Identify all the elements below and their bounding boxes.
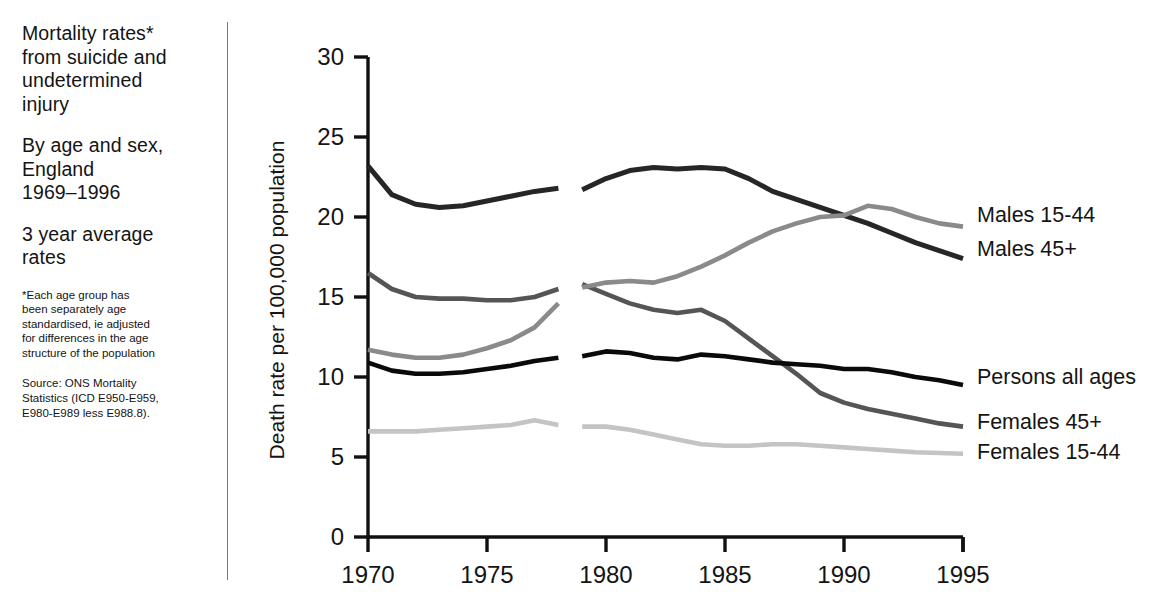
y-tick-30: 30: [290, 43, 344, 71]
plot-svg: [0, 0, 1158, 607]
figure-root: Mortality rates* from suicide and undete…: [0, 0, 1158, 607]
series-label-females-15-44: Females 15-44: [977, 440, 1120, 465]
series-label-males-15-44: Males 15-44: [977, 203, 1095, 228]
x-tick-1980: 1980: [566, 561, 646, 589]
axes: [354, 57, 963, 552]
chart: Death rate per 100,000 population 051015…: [0, 0, 1158, 607]
series-females-15-44: [368, 420, 963, 454]
x-tick-1995: 1995: [923, 561, 1003, 589]
series-label-females-45-: Females 45+: [977, 409, 1102, 434]
x-tick-1975: 1975: [447, 561, 527, 589]
series-males-45-: [368, 166, 963, 259]
x-tick-1990: 1990: [804, 561, 884, 589]
x-tick-1985: 1985: [685, 561, 765, 589]
y-tick-5: 5: [290, 443, 344, 471]
y-tick-25: 25: [290, 123, 344, 151]
series-males-15-44: [368, 206, 963, 358]
y-tick-15: 15: [290, 283, 344, 311]
y-tick-10: 10: [290, 363, 344, 391]
y-tick-0: 0: [290, 523, 344, 551]
series-females-45-: [368, 273, 963, 427]
series-label-males-45-: Males 45+: [977, 237, 1077, 262]
x-tick-1970: 1970: [328, 561, 408, 589]
series-label-persons-all-ages: Persons all ages: [977, 365, 1136, 390]
y-tick-20: 20: [290, 203, 344, 231]
